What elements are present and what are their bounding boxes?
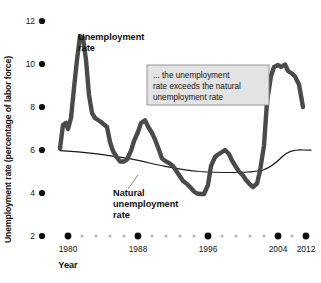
natural-rate-leader-line [128,175,138,189]
unemployment-rate-line [60,36,303,194]
x-minor-tick-dot [151,235,154,238]
x-tick-label: 1988 [129,244,148,254]
y-axis-tick-labels: 12 10 8 6 4 2 [26,16,36,241]
series-label-line: Natural [113,188,145,198]
x-minor-tick-dot [263,235,266,238]
x-minor-tick-dot [291,235,294,238]
x-minor-tick-dot [165,235,168,238]
y-tick-label: 4 [30,188,35,198]
x-major-tick-dot [303,233,310,240]
x-minor-tick-dot [249,235,252,238]
x-minor-tick-dot [193,235,196,238]
unemployment-rate-label: Unemployment rate [78,32,144,53]
y-tick-dot [39,61,45,67]
y-tick-dot [39,233,45,239]
x-major-tick-dot [135,233,142,240]
callout-annotation: ... the unemployment rate exceeds the na… [147,65,269,105]
x-tick-label: 2012 [297,244,316,254]
x-minor-tick-dot [81,235,84,238]
y-tick-label: 8 [30,102,35,112]
y-axis-tick-dots [39,18,45,239]
series-label-line: Unemployment [78,32,144,42]
y-tick-dot [39,190,45,196]
x-minor-tick-dot [123,235,126,238]
x-axis-major-dots [65,233,310,240]
x-axis-tick-labels: 1980 1988 1996 2004 2012 [59,244,316,254]
y-tick-dot [39,104,45,110]
x-minor-tick-dot [95,235,98,238]
y-tick-label: 10 [26,59,36,69]
callout-text-line: unemployment rate [153,93,224,102]
y-tick-label: 6 [30,145,35,155]
y-tick-dot [39,18,45,24]
y-tick-label: 12 [26,16,36,26]
y-tick-label: 2 [30,231,35,241]
x-minor-tick-dot [109,235,112,238]
unemployment-rate-chart: Unemployment rate (percentage of labor f… [0,0,321,283]
x-tick-label: 1996 [199,244,218,254]
series-label-line: rate [113,210,130,220]
x-tick-label: 1980 [59,244,78,254]
series-label-line: rate [78,43,95,53]
x-major-tick-dot [65,233,72,240]
y-axis-title: Unemployment rate (percentage of labor f… [3,56,13,243]
callout-text-line: rate exceeds the natural [153,82,241,91]
x-axis-minor-dots [81,235,294,238]
callout-text-line: ... the unemployment [153,71,230,80]
series-label-line: unemployment [113,199,178,209]
y-tick-dot [39,147,45,153]
x-major-tick-dot [205,233,212,240]
natural-rate-line [60,150,311,173]
chart-canvas: Unemployment rate (percentage of labor f… [0,0,321,283]
x-axis-title: Year [58,260,78,270]
x-minor-tick-dot [221,235,224,238]
natural-rate-label: Natural unemployment rate [113,188,178,220]
x-minor-tick-dot [235,235,238,238]
x-minor-tick-dot [179,235,182,238]
x-tick-label: 2004 [269,244,288,254]
x-major-tick-dot [275,233,282,240]
